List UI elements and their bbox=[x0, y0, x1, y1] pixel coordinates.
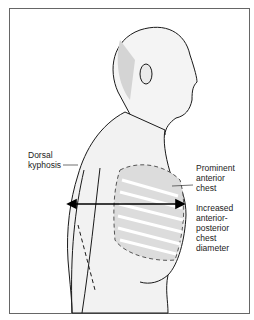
label-dorsal-kyphosis: Dorsal kyphosis bbox=[28, 150, 61, 170]
label-prominent-anterior-chest: Prominent anterior chest bbox=[196, 163, 235, 193]
label-increased-ap-diameter: Increased anterior- posterior chest diam… bbox=[196, 203, 233, 253]
